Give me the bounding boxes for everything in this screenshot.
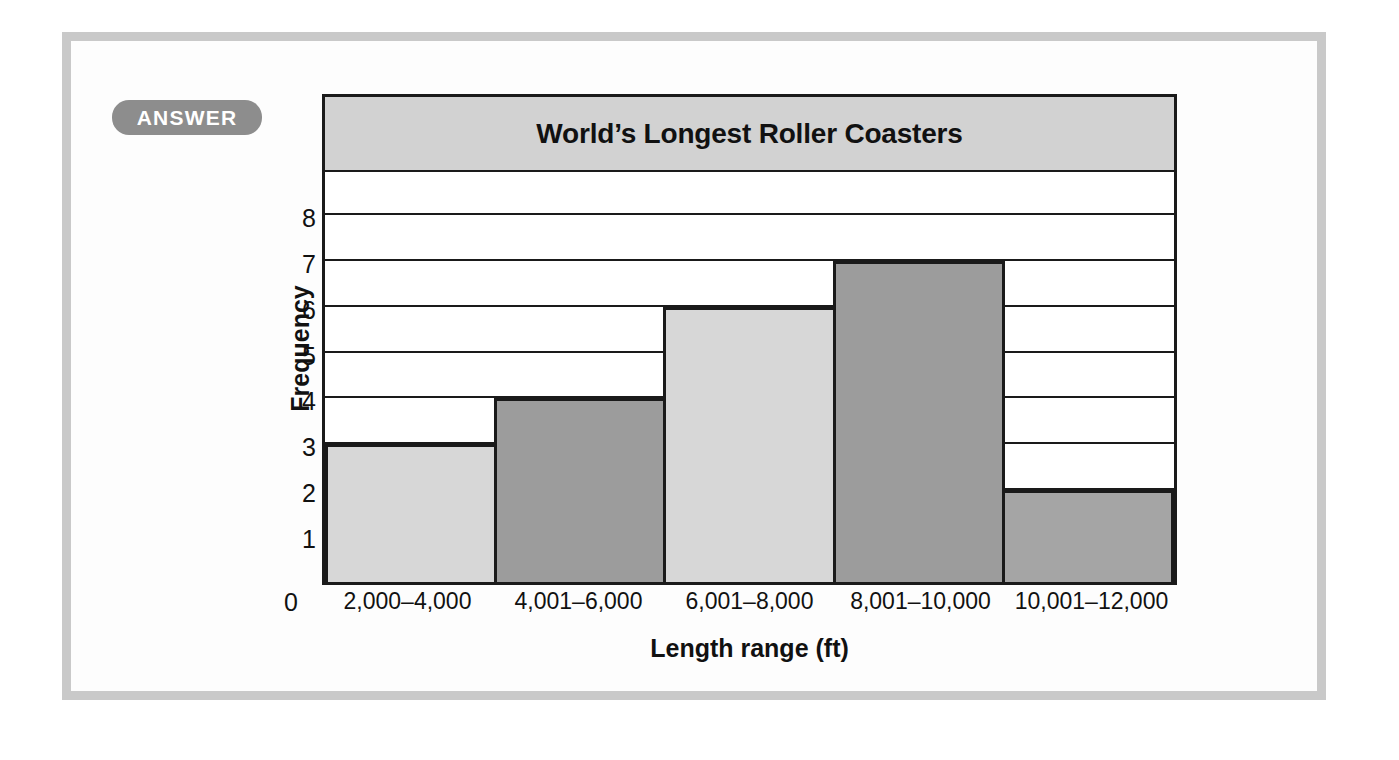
x-axis-tick: 6,001–8,000 xyxy=(664,588,835,615)
histogram-bar xyxy=(663,307,835,582)
answer-badge: ANSWER xyxy=(112,100,262,135)
x-axis-tick: 2,000–4,000 xyxy=(322,588,493,615)
histogram-bar xyxy=(833,261,1005,582)
histogram-bar xyxy=(325,444,497,582)
y-axis-title: Frequency xyxy=(286,219,315,479)
x-axis-tick: 8,001–10,000 xyxy=(835,588,1006,615)
x-axis-tick-labels: 2,000–4,0004,001–6,0006,001–8,0008,001–1… xyxy=(322,588,1177,615)
histogram-bar xyxy=(1002,490,1174,582)
chart-title-band: World’s Longest Roller Coasters xyxy=(322,94,1177,173)
x-axis-title: Length range (ft) xyxy=(322,634,1177,663)
answer-badge-label: ANSWER xyxy=(137,106,238,130)
histogram-figure: World’s Longest Roller Coasters 12345678… xyxy=(322,94,1177,654)
bars-layer xyxy=(325,172,1174,582)
plot-inner xyxy=(325,172,1174,582)
chart-title: World’s Longest Roller Coasters xyxy=(536,118,962,150)
x-axis-tick: 4,001–6,000 xyxy=(493,588,664,615)
y-axis-tick: 1 xyxy=(276,527,316,552)
x-axis-origin-label: 0 xyxy=(284,588,298,617)
plot-area xyxy=(322,172,1177,585)
histogram-bar xyxy=(494,398,666,582)
x-axis-tick: 10,001–12,000 xyxy=(1006,588,1177,615)
y-axis-tick: 2 xyxy=(276,481,316,506)
